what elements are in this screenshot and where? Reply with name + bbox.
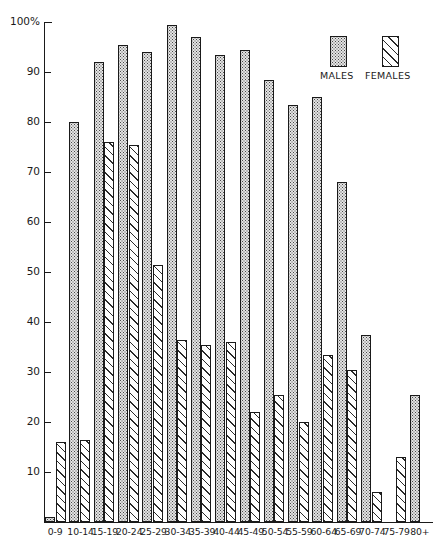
bar-males-10-14: [69, 122, 79, 522]
x-axis-label-80+: 80+: [408, 525, 432, 538]
bar-group: [361, 22, 385, 522]
x-axis-line: [44, 522, 433, 523]
bar-females-65-69: [347, 370, 357, 523]
bar-females-35-39: [201, 345, 211, 523]
bar-females-0-9: [56, 442, 66, 522]
bar-group: [142, 22, 166, 522]
bar-females-60-64: [323, 355, 333, 523]
bar-females-20-24: [129, 145, 139, 523]
bar-males-45-49: [240, 50, 250, 523]
x-axis-label-40-44: 40-44: [213, 525, 237, 538]
bar-group: [69, 22, 93, 522]
x-axis-label-75-79: 75-79: [383, 525, 407, 538]
x-axis-label-15-19: 15-19: [92, 525, 116, 538]
y-tick-label-20: 20: [0, 416, 40, 426]
legend-label-males: MALES: [320, 70, 354, 81]
bar-males-60-64: [312, 97, 322, 522]
x-axis-label-10-14: 10-14: [67, 525, 91, 538]
bar-females-15-19: [104, 142, 114, 522]
x-axis-label-55-59: 55-59: [286, 525, 310, 538]
x-axis-label-0-9: 0-9: [43, 525, 67, 538]
y-tick-label-100: 100%: [0, 16, 40, 26]
bar-females-40-44: [226, 342, 236, 522]
y-tick-label-40: 40: [0, 316, 40, 326]
bar-females-70-74: [372, 492, 382, 522]
bar-males-65-69: [337, 182, 347, 522]
bar-group: [264, 22, 288, 522]
bar-males-55-59: [288, 105, 298, 523]
chart-title: [44, 0, 424, 3]
bar-males-15-19: [94, 62, 104, 522]
y-tick-label-80: 80: [0, 116, 40, 126]
bar-group: [215, 22, 239, 522]
bar-females-55-59: [299, 422, 309, 522]
bar-group: [118, 22, 142, 522]
x-axis-label-30-34: 30-34: [165, 525, 189, 538]
bar-females-45-49: [250, 412, 260, 522]
legend-swatch-males: [330, 36, 347, 67]
legend-label-females: FEMALES: [365, 70, 411, 81]
bar-group: [288, 22, 312, 522]
bar-group: [45, 22, 69, 522]
bar-males-20-24: [118, 45, 128, 523]
bar-males-35-39: [191, 37, 201, 522]
bar-males-30-34: [167, 25, 177, 523]
bar-females-25-29: [153, 265, 163, 523]
x-axis-label-50-54: 50-54: [262, 525, 286, 538]
bar-group: [337, 22, 361, 522]
y-tick-label-10: 10: [0, 466, 40, 476]
x-axis-label-60-64: 60-64: [310, 525, 334, 538]
bar-group: [410, 22, 434, 522]
bar-males-80+: [410, 395, 420, 523]
x-axis-label-20-24: 20-24: [116, 525, 140, 538]
bar-group: [94, 22, 118, 522]
bar-chart: 102030405060708090100% 0-910-1415-1920-2…: [0, 0, 439, 543]
bar-group: [240, 22, 264, 522]
bar-group: [191, 22, 215, 522]
bar-males-25-29: [142, 52, 152, 522]
bar-males-40-44: [215, 55, 225, 523]
legend-swatch-females: [382, 36, 399, 67]
bar-females-10-14: [80, 440, 90, 523]
x-axis-label-35-39: 35-39: [189, 525, 213, 538]
x-axis-label-25-29: 25-29: [140, 525, 164, 538]
bar-males-50-54: [264, 80, 274, 523]
bar-females-50-54: [274, 395, 284, 523]
y-tick-label-30: 30: [0, 366, 40, 376]
y-tick-label-70: 70: [0, 166, 40, 176]
y-tick-label-60: 60: [0, 216, 40, 226]
x-axis-labels: 0-910-1415-1920-2425-2930-3435-3940-4445…: [44, 525, 433, 541]
plot-area: [44, 22, 433, 522]
x-axis-label-65-69: 65-69: [335, 525, 359, 538]
bar-females-30-34: [177, 340, 187, 523]
x-axis-label-70-74: 70-74: [359, 525, 383, 538]
bar-group: [167, 22, 191, 522]
bar-group: [385, 22, 409, 522]
x-axis-label-45-49: 45-49: [238, 525, 262, 538]
y-tick-label-90: 90: [0, 66, 40, 76]
bar-females-75-79: [396, 457, 406, 522]
bar-males-70-74: [361, 335, 371, 523]
legend: MALES FEMALES: [320, 36, 430, 88]
y-tick-label-50: 50: [0, 266, 40, 276]
bar-group: [312, 22, 336, 522]
